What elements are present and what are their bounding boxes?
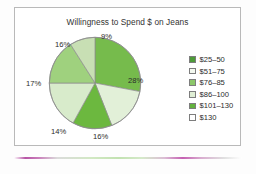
legend-item: $130 xyxy=(189,113,233,122)
legend-item: $51–75 xyxy=(189,67,233,76)
decorative-rule xyxy=(14,157,242,159)
pie-label-25-50: 28% xyxy=(128,76,143,85)
legend-swatch-icon xyxy=(189,103,196,110)
legend-item-label: $101–130 xyxy=(200,101,234,110)
page-root: Willingness to Spend $ on Jeans 28% 16% … xyxy=(0,0,256,174)
pie-label-130: 9% xyxy=(101,32,112,41)
pie-label-76-85: 14% xyxy=(51,127,66,136)
legend-item-label: $76–85 xyxy=(200,78,225,87)
legend-swatch-icon xyxy=(189,79,196,86)
chart-panel: Willingness to Spend $ on Jeans 28% 16% … xyxy=(14,7,241,146)
legend-item: $76–85 xyxy=(189,78,233,87)
legend-item-label: $130 xyxy=(200,113,217,122)
legend-item: $86–100 xyxy=(189,90,233,99)
pie-label-86-100: 17% xyxy=(26,79,41,88)
chart-legend: $25–50$51–75$76–85$86–100$101–130$130 xyxy=(189,55,233,122)
pie-slice-group xyxy=(49,37,140,128)
legend-item: $101–130 xyxy=(189,101,233,110)
legend-item-label: $51–75 xyxy=(200,67,225,76)
legend-item-label: $25–50 xyxy=(200,55,225,64)
legend-swatch-icon xyxy=(189,56,196,63)
legend-swatch-icon xyxy=(189,114,196,121)
legend-item-label: $86–100 xyxy=(200,90,230,99)
pie-label-51-75: 16% xyxy=(93,132,108,141)
legend-item: $25–50 xyxy=(189,55,233,64)
legend-swatch-icon xyxy=(189,68,196,75)
pie-label-101-130: 16% xyxy=(55,40,70,49)
chart-title: Willingness to Spend $ on Jeans xyxy=(15,17,240,27)
legend-swatch-icon xyxy=(189,91,196,98)
